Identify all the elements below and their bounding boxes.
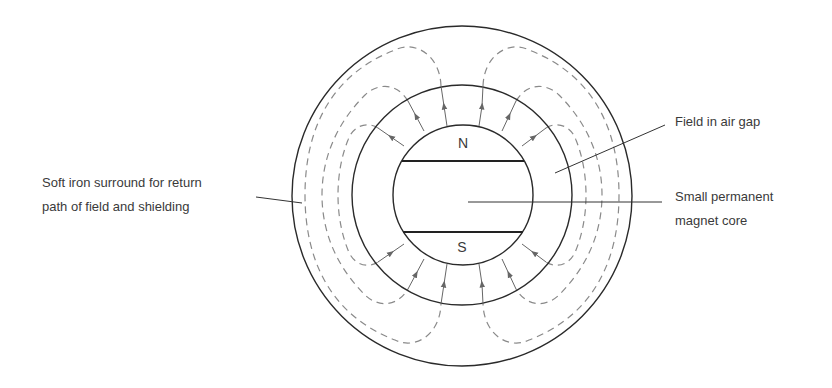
core-label: Small permanent magnet core	[675, 185, 773, 233]
soft-iron-outer	[292, 26, 632, 366]
soft-iron-leader	[256, 197, 302, 203]
soft-iron-label-line2: path of field and shielding	[42, 195, 202, 219]
south-pole-label: S	[457, 239, 466, 255]
soft-iron-label-line1: Soft iron surround for return	[42, 171, 202, 195]
core-label-line1: Small permanent	[675, 185, 773, 209]
air-gap-field-lines	[378, 86, 546, 304]
soft-iron-label: Soft iron surround for return path of fi…	[42, 171, 202, 219]
north-pole-label: N	[458, 135, 468, 151]
soft-iron-inner	[352, 85, 572, 305]
core-label-line2: magnet core	[675, 209, 773, 233]
air-gap-label: Field in air gap	[675, 110, 760, 134]
